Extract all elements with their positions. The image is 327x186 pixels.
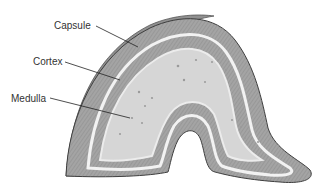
label-capsule: Capsule [54,21,91,31]
adrenal-diagram: Capsule Cortex Medulla [0,0,327,186]
label-medulla: Medulla [11,94,46,104]
label-cortex: Cortex [33,57,62,67]
gland-illustration [0,0,327,186]
